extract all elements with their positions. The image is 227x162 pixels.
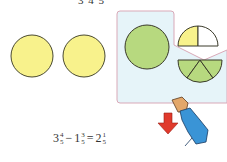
formula-a-denominator: 5 [60,139,64,146]
formula-c-denominator: 5 [103,139,107,146]
formula-minus: − [66,131,73,146]
green-circle [125,25,169,69]
subtraction-formula: 3 4 5 − 1 3 5 = 2 1 5 [53,131,106,146]
formula-a-whole: 3 [53,131,59,146]
hand-icon [172,97,208,146]
formula-b-fraction: 3 5 [81,132,85,146]
formula-equals: = [87,131,94,146]
down-arrow-icon [158,113,178,134]
formula-b-denominator: 5 [81,139,85,146]
remaining-fifths [178,26,218,46]
fraction-illustration [0,0,227,162]
yellow-circle-1 [11,35,53,77]
formula-c-fraction: 1 5 [103,132,107,146]
formula-a-fraction: 4 5 [60,132,64,146]
formula-b-whole: 1 [74,131,80,146]
yellow-circle-2 [63,35,105,77]
formula-c-whole: 2 [96,131,102,146]
